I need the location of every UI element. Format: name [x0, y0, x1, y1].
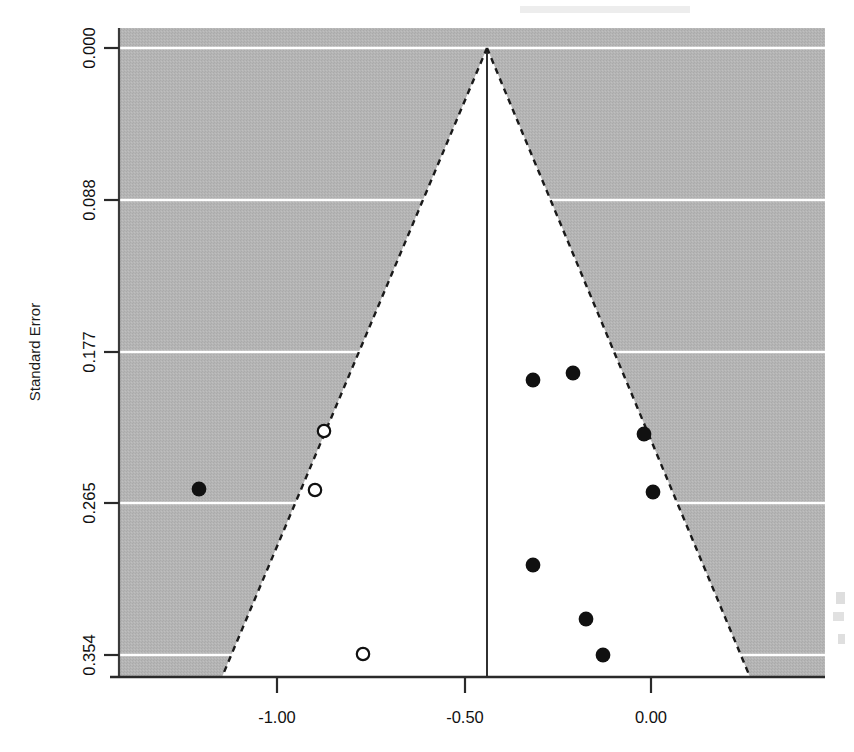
data-point-filled: [637, 427, 652, 442]
data-point-open: [318, 425, 330, 437]
x-tick-label-0: -1.00: [258, 708, 296, 726]
data-point-open: [357, 648, 369, 660]
data-point-filled: [579, 612, 594, 627]
y-tick-label-4: 0.354: [80, 634, 98, 675]
y-tick-label-1: 0.088: [80, 179, 98, 220]
x-tick-label-2: 0.00: [635, 708, 667, 726]
scan-speck: [520, 6, 690, 13]
x-tick-label-1: -0.50: [446, 708, 484, 726]
data-point-filled: [192, 482, 207, 497]
y-tick-label-0: 0.000: [80, 27, 98, 68]
data-point-filled: [566, 366, 581, 381]
plot-panel: [110, 28, 825, 677]
data-point-filled: [596, 648, 611, 663]
scan-speck: [838, 634, 845, 644]
data-point-open: [309, 484, 321, 496]
data-point-filled: [646, 485, 661, 500]
scan-speck: [836, 592, 845, 604]
data-point-filled: [526, 558, 541, 573]
data-point-filled: [526, 373, 541, 388]
y-tick-label-2: 0.177: [80, 331, 98, 372]
y-axis-title: Standard Error: [26, 303, 43, 401]
funnel-plot-chart: 0.000 0.088 0.177 0.265 0.354 Standard E…: [0, 0, 854, 752]
scan-speck: [833, 612, 844, 621]
y-tick-label-3: 0.265: [80, 482, 98, 523]
